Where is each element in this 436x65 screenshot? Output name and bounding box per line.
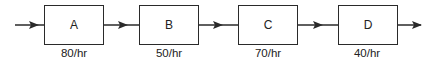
station-b-label: B bbox=[165, 18, 173, 32]
station-b-rate: 50/hr bbox=[134, 47, 204, 59]
station-c-rate: 70/hr bbox=[233, 47, 303, 59]
station-a-rate: 80/hr bbox=[39, 47, 109, 59]
station-d-rate: 40/hr bbox=[332, 47, 402, 59]
station-d: D bbox=[338, 5, 398, 45]
station-c-label: C bbox=[264, 18, 273, 32]
station-c: C bbox=[238, 5, 298, 45]
station-b: B bbox=[139, 5, 199, 45]
station-d-label: D bbox=[364, 18, 373, 32]
station-a: A bbox=[44, 5, 104, 45]
station-a-label: A bbox=[70, 18, 78, 32]
